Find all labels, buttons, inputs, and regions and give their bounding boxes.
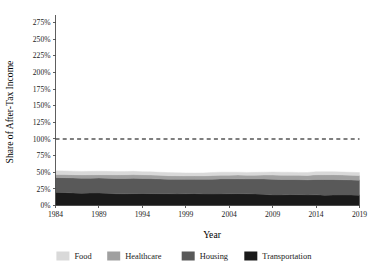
legend-swatch-transportation [244,252,257,261]
legend-swatch-food [56,252,69,261]
chart-legend: FoodHealthcareHousingTransportation [56,252,312,262]
x-tick-label: 1994 [135,210,150,219]
x-tick-label: 2004 [222,210,237,219]
y-tick-label: 250% [33,35,51,44]
x-tick-label: 1989 [91,210,106,219]
x-axis-ticks: 19841989199419992004200920142019 [48,206,367,220]
y-tick-label: 0% [40,201,51,210]
stacked-area-chart: 0%25%50%75%100%125%150%175%200%225%250%2… [0,0,374,270]
x-tick-label: 2019 [352,210,367,219]
legend-label-healthcare: Healthcare [125,252,162,261]
legend-swatch-healthcare [107,252,120,261]
y-tick-label: 100% [33,135,51,144]
y-tick-label: 175% [33,85,51,94]
legend-label-transportation: Transportation [262,252,312,261]
y-tick-label: 200% [33,68,51,77]
x-axis-title: Year [203,229,221,240]
x-tick-label: 1984 [48,210,63,219]
x-tick-label: 2009 [265,210,280,219]
x-tick-label: 1999 [178,210,193,219]
chart-figure: 0%25%50%75%100%125%150%175%200%225%250%2… [0,0,374,270]
y-axis-ticks: 0%25%50%75%100%125%150%175%200%225%250%2… [33,18,56,210]
legend-label-food: Food [74,252,92,261]
y-tick-label: 225% [33,51,51,60]
area-housing [56,178,360,196]
y-tick-label: 25% [37,185,52,194]
area-series-group [56,171,360,206]
y-tick-label: 150% [33,101,51,110]
y-tick-label: 275% [33,18,51,27]
x-tick-label: 2014 [308,210,323,219]
y-tick-label: 75% [37,151,52,160]
y-tick-label: 125% [33,118,51,127]
legend-label-housing: Housing [200,252,229,261]
y-tick-label: 50% [37,168,52,177]
legend-swatch-housing [182,252,195,261]
y-axis-title: Share of After-Tax Income [4,61,15,164]
